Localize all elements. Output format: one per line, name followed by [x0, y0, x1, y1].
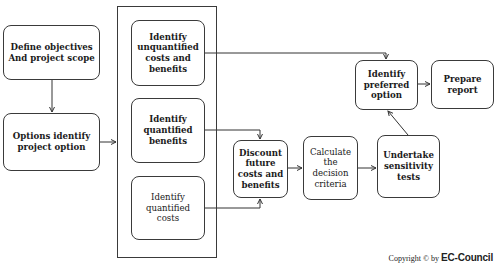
node-label: Identify quantified benefits — [134, 114, 202, 146]
node-undertake-sensitivity: Undertake sensitivity tests — [377, 135, 440, 198]
node-discount-future: Discount future costs and benefits — [233, 140, 288, 198]
copyright-brand: EC-Council — [441, 252, 493, 263]
node-label: Prepare report — [433, 74, 491, 95]
node-identify-quantified-benefits: Identify quantified benefits — [131, 98, 205, 163]
node-define-objectives: Define objectives And project scope — [3, 25, 100, 80]
node-calculate-decision-criteria: Calculate the decision criteria — [303, 136, 358, 200]
copyright-prefix: Copyright © by — [389, 254, 442, 263]
node-label: Options identify project option — [6, 131, 97, 152]
node-label: Undertake sensitivity tests — [380, 150, 437, 182]
copyright-notice: Copyright © by EC-Council — [389, 252, 493, 263]
node-options-identify: Options identify project option — [3, 113, 100, 171]
node-label: Identify preferred option — [358, 69, 415, 101]
node-label: Identify unquantified costs and benefits — [134, 32, 202, 75]
node-identify-preferred-option: Identify preferred option — [355, 60, 418, 110]
node-label: Define objectives And project scope — [6, 42, 97, 63]
node-identify-quantified-costs: Identify quantified costs — [131, 176, 205, 240]
node-label: Discount future costs and benefits — [236, 148, 285, 191]
node-label: Calculate the decision criteria — [306, 147, 355, 190]
node-prepare-report: Prepare report — [431, 60, 494, 109]
node-label: Identify quantified costs — [134, 192, 202, 224]
node-identify-unquantified: Identify unquantified costs and benefits — [131, 20, 205, 86]
